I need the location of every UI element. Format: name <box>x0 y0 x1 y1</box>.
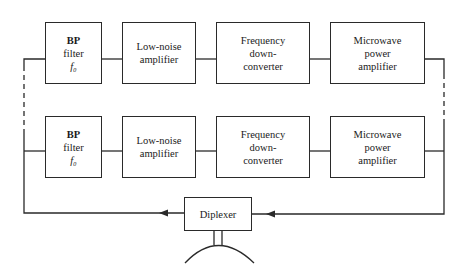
low-noise-amplifier-lower: Low-noise amplifier <box>122 116 196 178</box>
block-label: Microwave <box>354 128 402 141</box>
block-label: down- <box>250 141 277 154</box>
block-label: filter <box>63 47 83 60</box>
block-label: power <box>364 141 390 154</box>
bp-filter-upper: BP filter f₀ <box>45 22 102 84</box>
block-label: f₀ <box>70 60 77 73</box>
block-label: converter <box>243 154 283 167</box>
block-label: f₀ <box>70 154 77 167</box>
arrow-left-icon <box>266 211 275 218</box>
frequency-downconverter-upper: Frequency down- converter <box>216 22 310 84</box>
block-label: Frequency <box>241 128 285 141</box>
low-noise-amplifier-upper: Low-noise amplifier <box>122 22 196 84</box>
block-label: amplifier <box>358 154 396 167</box>
block-label: Frequency <box>241 34 285 47</box>
block-label: BP <box>67 34 80 47</box>
block-label: power <box>364 47 390 60</box>
block-label: Low-noise <box>137 134 182 147</box>
arrow-left-icon <box>159 210 168 217</box>
bp-filter-lower: BP filter f₀ <box>45 116 102 178</box>
block-label: amplifier <box>140 53 178 66</box>
frequency-downconverter-lower: Frequency down- converter <box>216 116 310 178</box>
transponder-block-diagram: BP filter f₀ Low-noise amplifier Frequen… <box>0 0 467 273</box>
block-label: Low-noise <box>137 40 182 53</box>
diplexer: Diplexer <box>184 197 252 231</box>
block-label: amplifier <box>358 60 396 73</box>
block-label: amplifier <box>140 147 178 160</box>
dish-antenna-icon <box>185 246 254 264</box>
diplexer-label: Diplexer <box>200 208 237 221</box>
block-label: BP <box>67 128 80 141</box>
block-label: converter <box>243 60 283 73</box>
block-label: filter <box>63 141 83 154</box>
block-label: down- <box>250 47 277 60</box>
microwave-power-amplifier-upper: Microwave power amplifier <box>330 22 425 84</box>
block-label: Microwave <box>354 34 402 47</box>
microwave-power-amplifier-lower: Microwave power amplifier <box>330 116 425 178</box>
